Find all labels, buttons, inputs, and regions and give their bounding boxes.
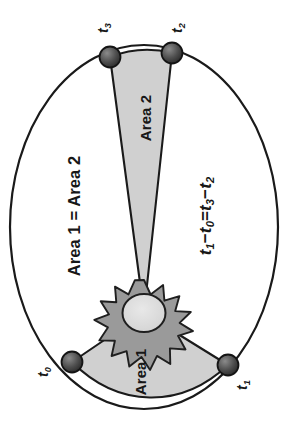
sun-body (123, 294, 166, 332)
diagram-canvas: Area 1 = Area 2 t1−t0=t3−t2 Area 1 Area … (0, 0, 287, 430)
node-label-t1: t1 (234, 380, 252, 390)
sector-label-area1: Area 1 (132, 349, 149, 395)
node-label-t2-sub: 2 (177, 23, 187, 28)
time-eq-term-t0: t0 (196, 221, 215, 233)
node-label-t3-sub: 3 (103, 23, 113, 28)
time-eq-minus-1: − (196, 233, 215, 243)
time-eq-term-t1: t1 (196, 243, 215, 255)
planet-node-t3 (100, 47, 121, 68)
planet-node-t1 (218, 355, 239, 376)
sector-area2 (110, 50, 172, 313)
time-eq-equals: = (196, 211, 215, 221)
node-label-t3-base: t (95, 28, 111, 33)
sector-label-area2: Area 2 (137, 95, 154, 141)
planet-node-t2 (162, 43, 183, 64)
annotation-area-equality: Area 1 = Area 2 (65, 156, 84, 277)
node-label-t0: t0 (35, 367, 53, 377)
node-label-t0-sub: 0 (43, 367, 53, 372)
time-eq-minus-2: − (196, 189, 215, 199)
planet-node-t0 (62, 352, 83, 373)
node-label-t2-base: t (169, 28, 185, 33)
time-eq-term-t3: t3 (196, 199, 215, 211)
time-eq-term-t2: t2 (196, 177, 215, 189)
annotation-time-equality: t1−t0=t3−t2 (196, 177, 217, 256)
node-label-t0-base: t (35, 372, 51, 377)
node-label-t2: t2 (169, 23, 187, 33)
node-label-t1-sub: 1 (242, 380, 252, 385)
node-label-t3: t3 (95, 23, 113, 33)
node-label-t1-base: t (234, 385, 250, 390)
